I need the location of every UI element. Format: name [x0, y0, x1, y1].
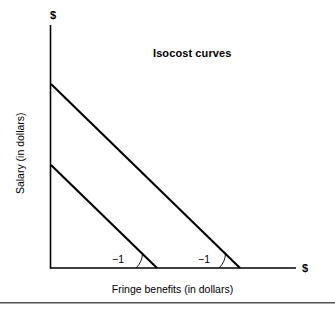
y-axis-unit-symbol: $: [50, 10, 56, 21]
lower-slope-angle-arc: [136, 253, 143, 268]
chart-title: Isocost curves: [153, 48, 231, 59]
x-axis-unit-symbol: $: [302, 263, 308, 274]
upper-isocost-curve: [51, 84, 240, 268]
x-axis-label: Fringe benefits (in dollars): [55, 284, 290, 295]
lower-slope-label: −1: [112, 254, 124, 265]
lower-isocost-curve: [51, 165, 157, 268]
upper-slope-angle-arc: [219, 253, 226, 268]
y-axis-label: Salary (in dollars): [15, 93, 26, 213]
isocost-curves-figure: Isocost curves $ $ Salary (in dollars) F…: [0, 0, 335, 313]
bottom-divider: [0, 302, 335, 304]
upper-slope-label: −1: [198, 254, 210, 265]
